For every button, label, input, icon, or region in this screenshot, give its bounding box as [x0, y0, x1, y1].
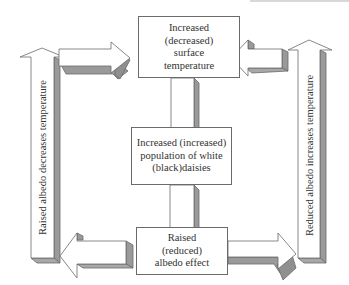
- box-daisy-population-line-3: (black)daisies: [137, 162, 226, 175]
- box-surface-temperature-line-2: (decreased): [164, 35, 214, 48]
- arrow-albedo-to-right: [228, 233, 296, 280]
- left-arrow-label: Raised albedo decreases temperature: [37, 70, 48, 246]
- box-surface-temperature-line-1: Increased: [164, 22, 214, 35]
- box-surface-temperature-line-3: surface: [164, 47, 214, 60]
- box-albedo-effect-line-3: albedo effect: [155, 257, 209, 270]
- box-daisy-population-line-2: population of white: [137, 150, 226, 163]
- box-albedo-effect-line-2: (reduced): [155, 245, 209, 258]
- arrow-left-to-temperature: [59, 42, 130, 79]
- box-daisy-population-line-1: Increased (increased): [137, 137, 226, 150]
- box-daisy-population: Increased (increased) population of whit…: [131, 127, 232, 185]
- arrow-albedo-to-left: [60, 233, 133, 278]
- box-albedo-effect-line-1: Raised: [155, 232, 209, 245]
- box-surface-temperature: Increased (decreased) surface temperatur…: [138, 16, 240, 78]
- box-surface-temperature-line-4: temperature: [164, 60, 214, 73]
- right-arrow-label: Reduced albedo increases temperature: [304, 68, 315, 244]
- box-albedo-effect: Raised (reduced) albedo effect: [136, 227, 228, 275]
